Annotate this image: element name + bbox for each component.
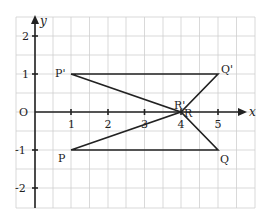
- x-tick-label: 5: [215, 118, 222, 131]
- y-axis-arrow-icon: [31, 15, 39, 24]
- point-label-q: Q: [220, 153, 229, 166]
- y-tick-label: -2: [15, 182, 26, 195]
- x-axis-label: x: [249, 105, 256, 119]
- y-axis-label: y: [39, 14, 47, 28]
- point-label-q-prime: Q': [221, 63, 233, 76]
- point-label-p-prime: P': [55, 67, 65, 80]
- point-label-r: R: [184, 107, 193, 120]
- y-tick-label: 2: [22, 30, 29, 43]
- x-axis-arrow-icon: [238, 108, 247, 116]
- axes: [31, 15, 247, 208]
- x-tick-label: 1: [68, 118, 75, 131]
- x-tick-label: 2: [105, 118, 112, 131]
- y-tick-label: -1: [15, 144, 26, 157]
- point-label-p: P: [58, 152, 66, 165]
- y-tick-label: 1: [22, 68, 29, 81]
- origin-label: O: [19, 106, 28, 119]
- coordinate-diagram: x y O 1 2 3 4 5 2 1 -1 -2 P' Q' R' R P Q: [0, 0, 266, 217]
